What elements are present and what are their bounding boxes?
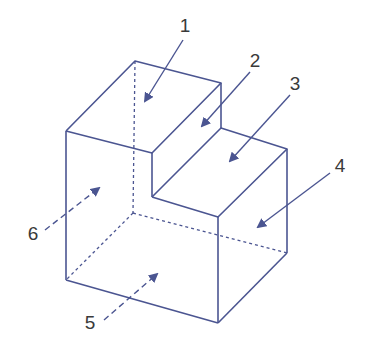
label-5: 5 [85,313,96,332]
hidden-edges [66,61,287,280]
arrow-4 [258,173,330,227]
label-4: 4 [335,156,346,175]
label-3: 3 [290,74,301,93]
visible-edges [66,61,287,323]
arrow-1 [145,40,183,101]
arrow-5 [104,274,157,320]
label-6: 6 [28,224,39,243]
label-2: 2 [250,51,261,70]
diagram-canvas: 1 2 3 4 5 6 [0,0,368,354]
arrow-3 [230,95,290,161]
label-1: 1 [180,16,191,35]
arrow-6 [45,188,99,230]
stepped-block-drawing [0,0,368,354]
